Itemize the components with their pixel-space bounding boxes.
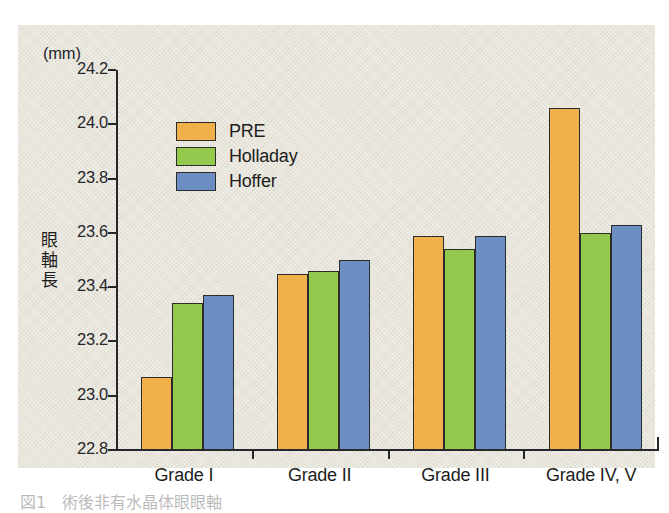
bar-holladay-grade-i: [172, 303, 203, 450]
x-axis-tick-mark: [523, 451, 525, 459]
bar-hoffer-grade-iv-v: [611, 225, 642, 450]
x-axis-group-label-grade-iv-v: Grade IV, V: [523, 465, 659, 486]
bar-hoffer-grade-iii: [475, 236, 506, 450]
y-axis-tick-label: 23.2: [56, 330, 108, 349]
legend-label-hoffer: Hoffer: [229, 171, 277, 192]
y-axis-tick-label: 23.8: [56, 168, 108, 187]
legend: PREHolladayHoffer: [176, 119, 297, 194]
y-axis-title-char-2: 軸: [38, 250, 60, 270]
y-axis-tick-mark: [108, 69, 116, 71]
y-axis-tick-mark: [108, 340, 116, 342]
bar-holladay-grade-ii: [308, 271, 339, 450]
y-axis-tick-label: 24.0: [56, 113, 108, 132]
legend-swatch-holladay: [176, 147, 216, 166]
x-axis-group-label-grade-i: Grade I: [116, 465, 252, 486]
y-axis-tick-mark: [108, 232, 116, 234]
y-axis-tick-mark: [108, 178, 116, 180]
bar-holladay-grade-iii: [444, 249, 475, 450]
legend-label-holladay: Holladay: [229, 146, 297, 167]
y-axis-tick-label: 23.0: [56, 385, 108, 404]
legend-item-pre: PRE: [176, 119, 297, 144]
bar-holladay-grade-iv-v: [580, 233, 611, 450]
y-axis-tick-mark: [108, 286, 116, 288]
legend-item-holladay: Holladay: [176, 144, 297, 169]
y-axis-tick-mark: [108, 123, 116, 125]
y-axis-tick-mark: [108, 449, 116, 451]
x-axis-group-label-grade-ii: Grade II: [252, 465, 388, 486]
x-axis-right-cap: [657, 437, 659, 451]
bar-pre-grade-i: [141, 377, 172, 450]
bar-pre-grade-iv-v: [549, 108, 580, 450]
y-axis-tick-label: 23.4: [56, 276, 108, 295]
bar-pre-grade-iii: [413, 236, 444, 450]
x-axis-tick-mark: [252, 451, 254, 459]
legend-swatch-pre: [176, 122, 216, 141]
figure-panel: (mm) 眼 軸 長 24.224.023.823.623.423.223.02…: [18, 25, 655, 468]
bar-pre-grade-ii: [277, 274, 308, 450]
bar-hoffer-grade-ii: [339, 260, 370, 450]
bar-hoffer-grade-i: [203, 295, 234, 450]
x-axis-tick-mark: [388, 451, 390, 459]
figure-caption: 図1 術後非有水晶体眼眼軸: [20, 489, 222, 513]
y-axis-tick-mark: [108, 395, 116, 397]
y-axis-tick-label: 24.2: [56, 59, 108, 78]
x-axis-group-label-grade-iii: Grade III: [388, 465, 524, 486]
legend-swatch-hoffer: [176, 172, 216, 191]
legend-item-hoffer: Hoffer: [176, 169, 297, 194]
y-axis-line: [116, 70, 118, 450]
y-axis-tick-label: 23.6: [56, 222, 108, 241]
legend-label-pre: PRE: [229, 121, 265, 142]
y-axis-tick-label: 22.8: [56, 439, 108, 458]
